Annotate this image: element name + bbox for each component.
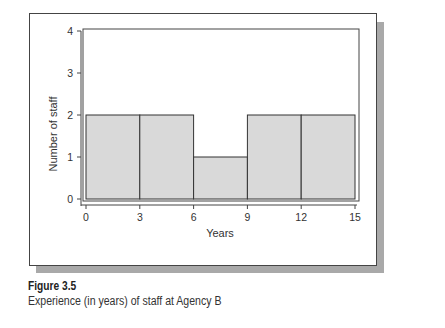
x-tick-label: 12 [295, 211, 307, 223]
x-tick-label: 15 [349, 211, 361, 223]
x-tick-label: 0 [83, 211, 89, 223]
histogram-bar [140, 115, 194, 199]
histogram-bar [86, 115, 140, 199]
y-tick-label: 0 [67, 193, 73, 205]
y-tick-label: 2 [67, 109, 73, 121]
histogram-bar [301, 115, 355, 199]
x-tick-label: 9 [244, 211, 250, 223]
x-axis-title: Years [190, 227, 250, 239]
x-tick-label: 3 [137, 211, 143, 223]
y-axis-title: Number of staff [47, 79, 59, 189]
y-tick-label: 4 [67, 25, 73, 37]
y-tick-label: 1 [67, 151, 73, 163]
x-tick-label: 6 [191, 211, 197, 223]
histogram-bar [194, 157, 248, 199]
histogram-bar [247, 115, 301, 199]
figure-label: Figure 3.5 [28, 279, 76, 293]
y-tick-label: 3 [67, 67, 73, 79]
figure-caption: Experience (in years) of staff at Agency… [28, 294, 222, 308]
